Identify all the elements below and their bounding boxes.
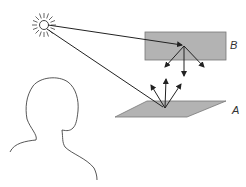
surface-b	[145, 32, 226, 60]
diagram-canvas: B A	[0, 0, 246, 187]
observer-head-silhouette	[10, 78, 97, 180]
surface-a	[115, 101, 226, 117]
label-a: A	[231, 104, 239, 116]
sun-icon	[32, 13, 56, 37]
label-b: B	[230, 39, 237, 51]
